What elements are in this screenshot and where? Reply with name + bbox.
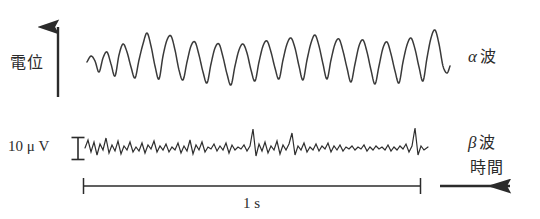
alpha-wave-trace (87, 30, 450, 85)
alpha-wave-kanji: 波 (480, 49, 496, 65)
beta-wave-kanji: 波 (479, 135, 495, 151)
alpha-symbol: α (468, 48, 477, 65)
time-scale-bar (83, 178, 421, 194)
amplitude-scale-label: 10 μ V (8, 139, 49, 154)
time-axis-label: 時間 (470, 160, 503, 176)
time-scale-label: 1 s (243, 196, 260, 211)
beta-symbol: β (468, 134, 476, 151)
beta-wave-trace (85, 128, 428, 156)
figure-canvas (0, 0, 540, 219)
beta-wave-label: β 波 (468, 134, 495, 151)
eeg-figure: 電位 10 μ V α 波 β 波 時間 1 s (0, 0, 540, 219)
alpha-wave-label: α 波 (468, 48, 496, 65)
amplitude-scale-marker (72, 138, 85, 160)
potential-axis-label: 電位 (10, 55, 43, 71)
